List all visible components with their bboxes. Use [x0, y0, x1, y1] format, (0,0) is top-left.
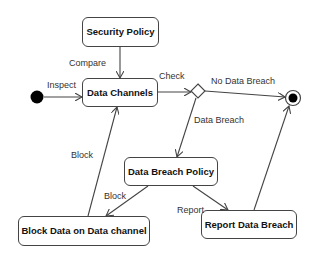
label-inspect: Inspect: [47, 80, 76, 90]
edge-report-final: [254, 106, 289, 210]
node-security-policy: Security Policy: [82, 17, 159, 47]
label-no-breach: No Data Breach: [211, 76, 275, 86]
node-report-breach: Report Data Breach: [201, 210, 297, 239]
node-data-channels: Data Channels: [82, 78, 158, 107]
label-compare: Compare: [69, 58, 106, 68]
label-block-back: Block: [71, 150, 93, 160]
label-report: Report: [177, 205, 204, 215]
node-block-data: Block Data on Data channel: [18, 216, 150, 246]
decision-node: [191, 84, 205, 98]
edge-data-breach: [177, 98, 196, 157]
label-data-breach: Data Breach: [194, 115, 244, 125]
edge-no-breach: [205, 91, 285, 97]
node-data-breach-policy: Data Breach Policy: [124, 157, 218, 186]
initial-node: [31, 91, 44, 104]
label-block-policy: Block: [104, 191, 126, 201]
final-node: [289, 94, 298, 103]
label-check: Check: [159, 71, 185, 81]
